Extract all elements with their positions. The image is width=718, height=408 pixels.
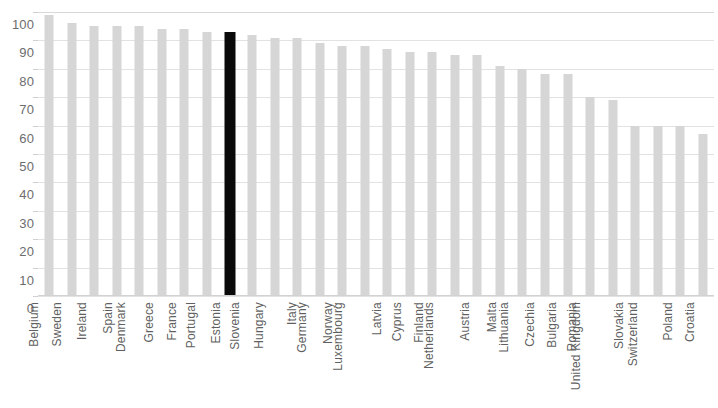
y-tick-mark-0 (33, 296, 38, 297)
y-tick-label: 100 (12, 17, 34, 32)
bar-slot (106, 12, 129, 296)
bar-slot (534, 12, 557, 296)
bar-series (38, 12, 714, 296)
bar-slot (624, 12, 647, 296)
bar-slot (353, 12, 376, 296)
bar-chart: 1009080706050403020100 BelgiumSwedenIrel… (0, 0, 718, 408)
bar-slot (151, 12, 174, 296)
x-axis-label: Greece (142, 302, 156, 343)
x-axis-label: Belgium (27, 302, 41, 347)
x-axis-label: Ireland (75, 302, 89, 340)
bar[interactable] (112, 26, 121, 296)
bar-slot (218, 12, 241, 296)
bar-slot (308, 12, 331, 296)
y-tick-label: 20 (19, 244, 34, 259)
bar[interactable] (360, 46, 369, 296)
gridline-0 (38, 296, 714, 297)
y-tick-label: 10 (19, 272, 34, 287)
x-axis-label: Netherlands (421, 302, 435, 369)
bar[interactable] (473, 55, 482, 296)
bar[interactable] (293, 38, 302, 296)
bar-slot (669, 12, 692, 296)
bar-slot (579, 12, 602, 296)
bar-slot (511, 12, 534, 296)
bar[interactable] (563, 74, 572, 296)
bar[interactable] (631, 126, 640, 296)
x-label-slot: Hungary (263, 300, 286, 408)
bar-slot (444, 12, 467, 296)
y-tick-label: 70 (19, 102, 34, 117)
y-tick-label: 30 (19, 215, 34, 230)
bar[interactable] (338, 46, 347, 296)
bar[interactable] (270, 38, 279, 296)
bar[interactable] (45, 15, 54, 296)
bar-highlighted[interactable] (224, 32, 235, 296)
x-axis-label: Latvia (371, 302, 385, 335)
x-axis-label: Luxembourg (330, 302, 344, 371)
x-axis-label: Czechia (523, 302, 537, 347)
bar[interactable] (450, 55, 459, 296)
bar[interactable] (653, 126, 662, 296)
bar[interactable] (676, 126, 685, 296)
bar[interactable] (157, 29, 166, 296)
x-axis-label: Austria (458, 302, 472, 341)
bar[interactable] (608, 100, 617, 296)
bar-slot (286, 12, 309, 296)
bar-slot (556, 12, 579, 296)
x-axis-label: Lithuania (497, 302, 511, 353)
x-axis-label: Sweden (50, 302, 64, 347)
bar[interactable] (698, 134, 707, 296)
plot-area (38, 12, 714, 296)
bar-slot (196, 12, 219, 296)
x-axis-label: Cyprus (390, 302, 404, 341)
bar[interactable] (518, 69, 527, 296)
bar[interactable] (383, 49, 392, 296)
bar[interactable] (315, 43, 324, 296)
x-axis-label: Hungary (251, 302, 265, 349)
x-axis-label: Slovenia (228, 302, 242, 350)
bar-slot (173, 12, 196, 296)
x-axis-label: Estonia (209, 302, 223, 343)
x-axis-label: Croatia (683, 302, 697, 342)
bar-slot (646, 12, 669, 296)
bar-slot (38, 12, 61, 296)
bar-slot (399, 12, 422, 296)
bar-slot (61, 12, 84, 296)
y-tick-label: 90 (19, 45, 34, 60)
x-label-slot: Croatia (691, 300, 714, 408)
y-tick-label: 40 (19, 187, 34, 202)
bar[interactable] (67, 23, 76, 296)
bar[interactable] (586, 97, 595, 296)
x-axis-label: Germany (294, 302, 308, 353)
bar-slot (421, 12, 444, 296)
bar-slot (241, 12, 264, 296)
x-axis-label: Bulgaria (545, 302, 559, 348)
bar[interactable] (202, 32, 211, 296)
x-axis-label: Slovakia (612, 302, 626, 349)
bar-slot (331, 12, 354, 296)
bar[interactable] (540, 74, 549, 296)
y-tick-label: 60 (19, 130, 34, 145)
bar-slot (263, 12, 286, 296)
bar-slot (601, 12, 624, 296)
x-axis-label: Denmark (114, 302, 128, 352)
bar-slot (466, 12, 489, 296)
bar[interactable] (180, 29, 189, 296)
bar[interactable] (495, 66, 504, 296)
bar-slot (128, 12, 151, 296)
bar[interactable] (135, 26, 144, 296)
bar[interactable] (428, 52, 437, 296)
x-axis-label: France (165, 302, 179, 341)
y-tick-label: 80 (19, 73, 34, 88)
x-axis-label: Poland (661, 302, 675, 341)
x-axis-label: United Kingdom (569, 302, 583, 390)
bar[interactable] (405, 52, 414, 296)
bar-slot (691, 12, 714, 296)
bar-slot (376, 12, 399, 296)
bar[interactable] (90, 26, 99, 296)
x-axis-line (38, 295, 714, 296)
bar[interactable] (248, 35, 257, 296)
x-axis-label: Portugal (184, 302, 198, 348)
bar-slot (489, 12, 512, 296)
y-axis-tick-labels: 1009080706050403020100 (0, 12, 34, 296)
